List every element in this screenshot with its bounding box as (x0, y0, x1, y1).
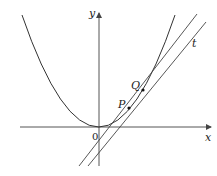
point-p-label: P (117, 98, 126, 111)
point-q (141, 88, 144, 91)
x-axis-label: x (205, 131, 212, 144)
diagram-canvas: y x 0 P Q t (0, 0, 217, 176)
point-p (127, 106, 130, 109)
tangent-label: t (192, 37, 197, 50)
tangent-line (88, 22, 206, 166)
origin-label: 0 (92, 131, 98, 142)
y-axis-label: y (88, 7, 96, 20)
point-q-label: Q (131, 79, 140, 92)
